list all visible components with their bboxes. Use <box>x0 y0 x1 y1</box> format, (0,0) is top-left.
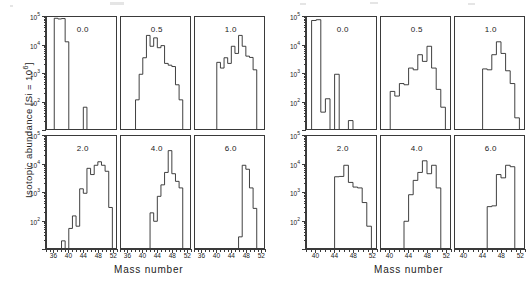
x-axis-major-tick <box>216 249 217 253</box>
x-axis-major-tick <box>520 249 521 253</box>
y-tick-exponent: 5 <box>297 130 300 136</box>
y-axis-minor-tick <box>304 77 307 78</box>
x-axis-minor-tick <box>198 249 199 252</box>
x-axis <box>454 249 525 259</box>
x-axis-minor-tick <box>165 249 166 252</box>
y-axis-major-tick <box>42 16 46 17</box>
y-axis-minor-tick <box>304 110 307 111</box>
y-axis-minor-tick <box>304 232 307 233</box>
x-axis-major-tick <box>127 249 128 253</box>
y-tick-exponent: 4 <box>37 40 40 46</box>
y-axis-minor-tick <box>304 82 307 83</box>
y-axis-minor-tick <box>44 19 47 20</box>
y-axis-minor-tick <box>304 138 307 139</box>
y-axis-minor-tick <box>304 225 307 226</box>
x-axis-spine <box>454 249 525 250</box>
y-tick-exponent: 5 <box>297 11 300 17</box>
x-axis-minor-tick <box>437 249 438 252</box>
x-axis-minor-tick <box>451 249 452 252</box>
y-axis-minor-tick <box>304 136 307 137</box>
x-axis-major-tick <box>482 249 483 253</box>
x-axis-minor-tick <box>497 249 498 252</box>
x-axis-minor-tick <box>154 249 155 252</box>
y-axis-tick-label: 104 <box>30 159 40 168</box>
y-axis-tick-label: 105 <box>290 130 300 139</box>
y-tick-exponent: 4 <box>297 159 300 165</box>
y-axis-minor-tick <box>44 106 47 107</box>
x-axis-minor-tick <box>65 249 66 252</box>
y-axis-minor-tick <box>304 84 307 85</box>
histogram-outline <box>62 162 113 248</box>
y-tick-exponent: 4 <box>37 159 40 165</box>
histogram-outline <box>404 161 441 248</box>
y-axis-minor-tick <box>44 113 47 114</box>
panel-label: 0.0 <box>77 25 89 34</box>
y-axis-major-tick <box>302 130 306 131</box>
y-axis-minor-tick <box>44 25 47 26</box>
y-axis-minor-tick <box>304 144 307 145</box>
x-axis-minor-tick <box>213 249 214 252</box>
y-axis-minor-tick <box>304 229 307 230</box>
x-axis <box>380 249 451 259</box>
y-axis-minor-tick <box>304 93 307 94</box>
x-axis-minor-tick <box>349 249 350 252</box>
chart-panel: 6.0 <box>454 135 525 249</box>
y-axis-minor-tick <box>44 93 47 94</box>
y-axis-minor-tick <box>44 212 47 213</box>
x-axis-minor-tick <box>306 249 307 252</box>
y-axis-major-tick <box>42 130 46 131</box>
x-axis-minor-tick <box>176 249 177 252</box>
y-axis-minor-tick <box>44 144 47 145</box>
y-axis-minor-tick <box>304 168 307 169</box>
x-axis <box>46 249 117 259</box>
y-axis-minor-tick <box>44 59 47 60</box>
y-axis-minor-tick <box>44 155 47 156</box>
x-axis-minor-tick <box>205 249 206 252</box>
y-axis-major-tick <box>42 102 46 103</box>
x-axis-minor-tick <box>339 249 340 252</box>
x-axis-minor-tick <box>516 249 517 252</box>
y-axis-major-tick <box>42 221 46 222</box>
x-axis-major-tick <box>246 249 247 253</box>
y-axis-minor-tick <box>44 138 47 139</box>
x-axis-minor-tick <box>184 249 185 252</box>
x-axis-minor-tick <box>432 249 433 252</box>
x-axis-minor-tick <box>265 249 266 252</box>
y-axis-minor-tick <box>304 139 307 140</box>
y-axis-minor-tick <box>44 139 47 140</box>
y-axis-minor-tick <box>44 229 47 230</box>
y-axis-minor-tick <box>304 79 307 80</box>
x-axis-minor-tick <box>506 249 507 252</box>
x-axis-major-tick <box>157 249 158 253</box>
y-tick-exponent: 2 <box>297 97 300 103</box>
y-axis-major-tick <box>302 45 306 46</box>
y-axis-minor-tick <box>304 31 307 32</box>
y-axis-minor-tick <box>304 166 307 167</box>
x-axis-minor-tick <box>124 249 125 252</box>
y-axis-minor-tick <box>44 121 47 122</box>
y-axis-minor-tick <box>44 74 47 75</box>
x-axis-major-tick <box>261 249 262 253</box>
y-axis-minor-tick <box>44 79 47 80</box>
x-axis-major-tick <box>53 249 54 253</box>
x-axis-major-tick <box>142 249 143 253</box>
y-axis-minor-tick <box>304 235 307 236</box>
x-axis-minor-tick <box>442 249 443 252</box>
y-axis-minor-tick <box>304 22 307 23</box>
y-axis-minor-tick <box>44 110 47 111</box>
y-axis-tick-label: 103 <box>290 68 300 77</box>
chart-panel: 0.0 <box>306 16 377 130</box>
x-axis-minor-tick <box>454 249 455 252</box>
y-axis-minor-tick <box>304 108 307 109</box>
y-axis-minor-tick <box>304 47 307 48</box>
y-axis-minor-tick <box>304 203 307 204</box>
x-axis-major-tick <box>98 249 99 253</box>
y-tick-exponent: 5 <box>37 11 40 17</box>
y-tick-exponent: 4 <box>297 40 300 46</box>
y-axis-minor-tick <box>44 22 47 23</box>
y-axis-major-tick <box>302 192 306 193</box>
y-axis-tick-label: 102 <box>290 97 300 106</box>
y-axis-minor-tick <box>44 168 47 169</box>
x-axis-title: Mass number <box>374 264 443 275</box>
histogram-outline <box>312 20 353 129</box>
